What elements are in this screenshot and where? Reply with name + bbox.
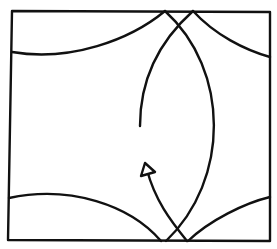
lens-right-arc (165, 11, 214, 241)
bottom-right-curve (188, 197, 270, 241)
fold-arrow (147, 170, 187, 241)
arrowhead-icon (141, 163, 155, 176)
top-right-curve (193, 11, 270, 57)
fold-diagram (0, 0, 277, 249)
bottom-left-curve (9, 194, 161, 241)
diagram-canvas (0, 0, 277, 249)
top-left-curve (12, 11, 165, 54)
lens-left-arc (140, 11, 193, 126)
